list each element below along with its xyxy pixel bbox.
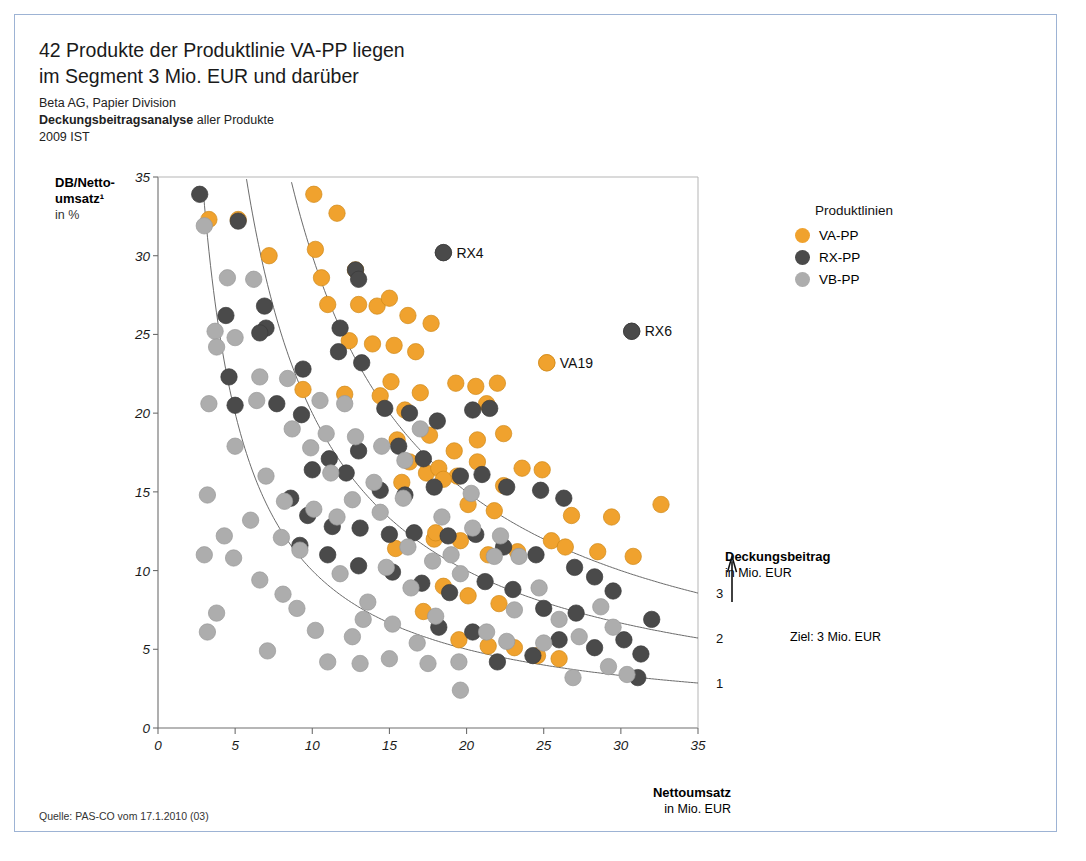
data-point[interactable] [625, 548, 641, 564]
data-point[interactable] [443, 547, 459, 563]
data-point[interactable] [284, 421, 300, 437]
data-point[interactable] [350, 558, 366, 574]
data-point[interactable] [463, 485, 479, 501]
data-point[interactable] [619, 666, 635, 682]
data-point[interactable] [199, 624, 215, 640]
data-point[interactable] [451, 654, 467, 670]
data-point[interactable] [306, 501, 322, 517]
data-point[interactable] [426, 479, 442, 495]
data-point[interactable] [506, 602, 522, 618]
data-point[interactable] [469, 432, 485, 448]
data-point[interactable] [292, 542, 308, 558]
data-point[interactable] [428, 608, 444, 624]
data-point[interactable] [557, 539, 573, 555]
data-point[interactable] [318, 425, 334, 441]
data-point[interactable] [378, 559, 394, 575]
data-point[interactable] [208, 339, 224, 355]
data-point[interactable] [312, 392, 328, 408]
data-point[interactable] [403, 580, 419, 596]
data-point[interactable] [423, 315, 439, 331]
data-point[interactable] [477, 573, 493, 589]
data-point[interactable] [551, 632, 567, 648]
data-point[interactable] [350, 443, 366, 459]
data-point[interactable] [511, 548, 527, 564]
data-point[interactable] [332, 566, 348, 582]
data-point[interactable] [563, 507, 579, 523]
data-point[interactable] [489, 375, 505, 391]
data-point[interactable] [246, 271, 262, 287]
data-point[interactable] [321, 451, 337, 467]
data-point[interactable] [528, 547, 544, 563]
data-point[interactable] [221, 369, 237, 385]
data-point[interactable] [452, 468, 468, 484]
data-point[interactable] [329, 205, 345, 221]
data-point[interactable] [289, 600, 305, 616]
data-point[interactable] [258, 468, 274, 484]
data-point[interactable] [338, 465, 354, 481]
data-point[interactable] [586, 569, 602, 585]
data-point[interactable] [586, 640, 602, 656]
data-point[interactable] [295, 361, 311, 377]
data-point[interactable] [252, 572, 268, 588]
data-point[interactable] [566, 559, 582, 575]
data-point[interactable] [653, 496, 669, 512]
data-point[interactable] [486, 548, 502, 564]
data-point[interactable] [400, 539, 416, 555]
data-point[interactable] [644, 611, 660, 627]
data-point[interactable] [320, 654, 336, 670]
data-point[interactable] [320, 296, 336, 312]
data-point[interactable] [347, 429, 363, 445]
data-point[interactable] [499, 479, 515, 495]
data-point[interactable] [420, 655, 436, 671]
data-point[interactable] [452, 566, 468, 582]
data-point[interactable] [474, 466, 490, 482]
data-point[interactable] [441, 584, 457, 600]
data-point[interactable] [412, 385, 428, 401]
data-point[interactable] [532, 482, 548, 498]
data-point[interactable] [531, 580, 547, 596]
data-point[interactable] [352, 520, 368, 536]
data-point[interactable] [386, 337, 402, 353]
data-point[interactable] [230, 213, 246, 229]
data-point[interactable] [350, 296, 366, 312]
data-point[interactable] [227, 438, 243, 454]
data-point[interactable] [482, 400, 498, 416]
data-point[interactable] [412, 421, 428, 437]
data-point[interactable] [275, 586, 291, 602]
data-point[interactable] [201, 396, 217, 412]
data-point[interactable] [293, 407, 309, 423]
data-point[interactable] [350, 271, 366, 287]
data-point[interactable] [590, 544, 606, 560]
data-point[interactable] [344, 629, 360, 645]
data-point[interactable] [489, 654, 505, 670]
data-point[interactable] [534, 462, 550, 478]
data-point[interactable] [252, 369, 268, 385]
data-point[interactable] [495, 425, 511, 441]
data-point[interactable] [192, 186, 208, 202]
data-point-highlighted[interactable] [624, 323, 640, 339]
data-point[interactable] [313, 270, 329, 286]
data-point[interactable] [249, 392, 265, 408]
data-point[interactable] [568, 605, 584, 621]
data-point[interactable] [329, 509, 345, 525]
data-point[interactable] [303, 440, 319, 456]
data-point[interactable] [603, 509, 619, 525]
data-point[interactable] [536, 635, 552, 651]
data-point[interactable] [381, 290, 397, 306]
data-point[interactable] [344, 492, 360, 508]
data-point[interactable] [499, 633, 515, 649]
data-point[interactable] [492, 528, 508, 544]
data-point[interactable] [465, 402, 481, 418]
data-point[interactable] [207, 323, 223, 339]
data-point[interactable] [199, 487, 215, 503]
data-point[interactable] [452, 682, 468, 698]
data-point[interactable] [355, 611, 371, 627]
data-point[interactable] [395, 490, 411, 506]
data-point[interactable] [354, 355, 370, 371]
data-point[interactable] [409, 635, 425, 651]
data-point[interactable] [491, 595, 507, 611]
data-point[interactable] [320, 547, 336, 563]
data-point[interactable] [352, 655, 368, 671]
data-point[interactable] [196, 547, 212, 563]
data-point[interactable] [381, 526, 397, 542]
